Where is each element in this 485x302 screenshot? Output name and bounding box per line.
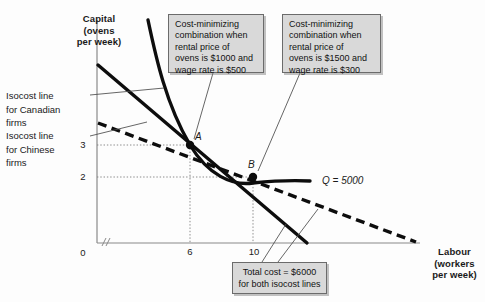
isocost-china-annotation-line-1: Isocost line (6, 129, 92, 143)
callout-china-line-5: wage rate is $300 (289, 65, 375, 76)
callout-china-line-3: rental price of (289, 42, 375, 53)
callout-total-cost-line-2: for both isocost lines (236, 279, 323, 291)
x-axis-title: Labour (workers per week) (424, 246, 485, 281)
callout-canada: Cost-minimizing combination when rental … (168, 14, 264, 73)
y-axis-title-line-3: per week) (62, 36, 136, 48)
point-a-label: A (195, 132, 202, 142)
leader-callout-canada (194, 73, 213, 139)
isocost-canada-annotation-line-3: firms (6, 116, 92, 130)
x-axis-title-line-1: Labour (424, 246, 485, 258)
isoquant-label: Q = 5000 (322, 175, 363, 186)
axis-break-mark-1 (102, 238, 106, 246)
x-tick-label-6: 6 (183, 247, 197, 257)
callout-canada-line-5: wage rate is $500 (175, 65, 258, 76)
isoquant-isocost-figure: Capital (ovens per week) Labour (workers… (0, 0, 485, 302)
isocost-china-annotation: Isocost line for Chinese firms (6, 129, 92, 170)
callout-china-line-4: ovens is $1500 and (289, 53, 375, 64)
leader-callout-china (258, 73, 300, 171)
isocost-canada-annotation-line-1: Isocost line (6, 89, 92, 103)
y-axis-title: Capital (ovens per week) (62, 13, 136, 48)
callout-canada-line-1: Cost-minimizing (175, 19, 258, 30)
callout-china: Cost-minimizing combination when rental … (282, 14, 381, 73)
axis-break-mark-2 (106, 238, 110, 246)
y-tick-label-2: 2 (76, 172, 90, 182)
y-axis-title-line-1: Capital (62, 13, 136, 25)
x-axis-title-line-3: per week) (424, 269, 485, 281)
callout-china-line-2: combination when (289, 30, 375, 41)
callout-china-line-1: Cost-minimizing (289, 19, 375, 30)
point-b-marker (249, 173, 257, 181)
y-axis-title-line-2: (ovens (62, 25, 136, 37)
isocost-canada-annotation: Isocost line for Canadian firms (6, 89, 92, 130)
origin-label: 0 (76, 248, 90, 258)
callout-total-cost-line-1: Total cost = $6000 (236, 267, 323, 279)
point-b-label: B (248, 160, 255, 170)
callout-total-cost: Total cost = $6000 for both isocost line… (232, 262, 327, 294)
x-tick-label-10: 10 (245, 247, 263, 257)
leader-cost-to-china-line (278, 209, 318, 262)
callout-canada-line-4: ovens is $1000 and (175, 53, 258, 64)
callout-canada-line-2: combination when (175, 30, 258, 41)
guide-lines-group (97, 145, 253, 243)
leader-lines-group (90, 73, 318, 262)
isocost-china-annotation-line-3: firms (6, 156, 92, 170)
x-axis-title-line-2: (workers (424, 258, 485, 270)
isocost-canada-annotation-line-2: for Canadian (6, 103, 92, 117)
isocost-china-annotation-line-2: for Chinese (6, 143, 92, 157)
callout-canada-line-3: rental price of (175, 42, 258, 53)
point-a-marker (186, 141, 194, 149)
